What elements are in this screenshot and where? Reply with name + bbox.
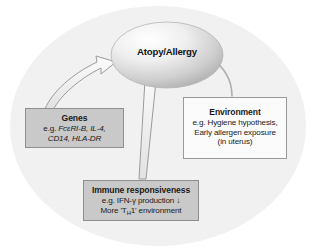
genes-box-line-1: e.g. FcεRI-B, IL-4,	[26, 124, 123, 134]
immune-box-line-1: e.g. IFN-γ production ↓	[84, 196, 198, 206]
genes-box-line-2: CD14, HLA-DR	[26, 134, 123, 144]
genes-line-1-prefix: e.g.	[43, 124, 58, 133]
immune-box-title: Immune responsiveness	[84, 185, 198, 195]
figure-canvas: Atopy/Allergy Genes e.g. FcεRI-B, IL-4, …	[0, 0, 316, 252]
immune-responsiveness-box: Immune responsiveness e.g. IFN-γ product…	[83, 180, 199, 221]
genes-box: Genes e.g. FcεRI-B, IL-4, CD14, HLA-DR	[25, 108, 124, 148]
environment-box-line-3: (in uterus)	[184, 137, 286, 147]
genes-line-1-genes: FcεRI-B, IL-4,	[58, 124, 105, 133]
environment-box-line-1: e.g. Hygiene hypothesis,	[184, 118, 286, 128]
center-node-label: Atopy/Allergy	[122, 46, 212, 57]
genes-box-title: Genes	[26, 113, 123, 123]
environment-box: Environment e.g. Hygiene hypothesis, Ear…	[183, 97, 287, 159]
environment-box-line-2: Early allergen exposure	[184, 128, 286, 138]
environment-box-title: Environment	[184, 107, 286, 117]
immune-box-line-2: More 'TH1' environment	[84, 206, 198, 216]
